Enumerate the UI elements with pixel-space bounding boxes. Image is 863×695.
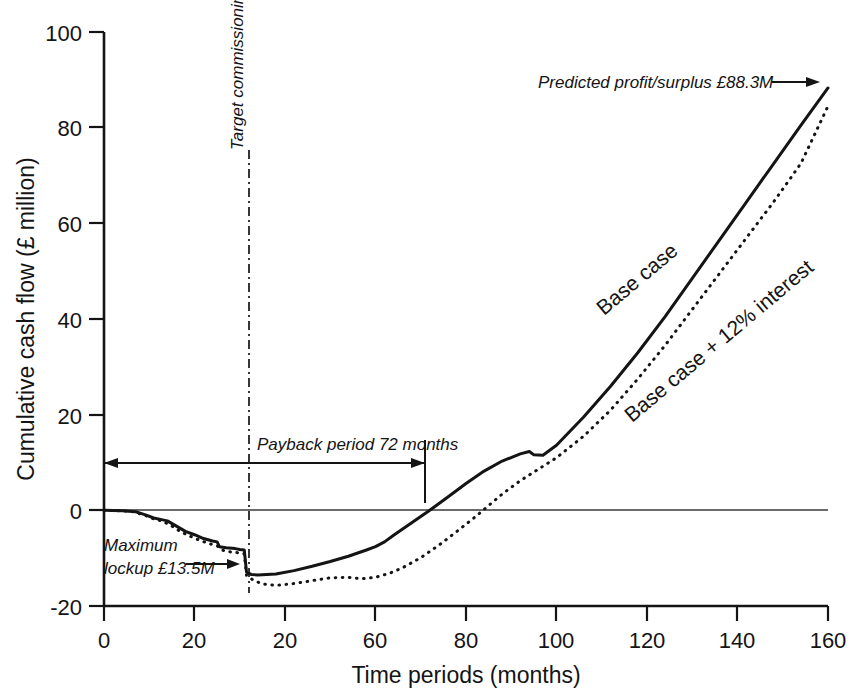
arrow-head-icon [227,559,240,569]
y-tick-label-40: 40 [58,308,82,333]
y-axis-ticks [89,32,104,606]
y-tick-label-100: 100 [45,21,82,46]
y-tick-label-80: 80 [58,116,82,141]
x-axis-tick-labels: 0 20 20 60 80 100 120 140 160 [98,628,846,653]
maximum-lockup-annotation: Maximum lockup £13.5M [104,536,240,578]
cash-flow-chart: 100 80 60 40 20 0 -20 0 20 20 60 80 [0,0,863,695]
x-tick-label-80: 80 [454,628,478,653]
y-tick-label-neg20: -20 [50,595,82,620]
x-axis-title: Time periods (months) [351,662,580,688]
predicted-profit-label: Predicted profit/surplus £88.3M [538,73,774,92]
x-tick-label-20: 20 [182,628,206,653]
x-tick-label-0: 0 [98,628,110,653]
x-tick-label-140: 140 [719,628,756,653]
y-tick-label-0: 0 [70,499,82,524]
target-commissioning-date-label: Target commissioning date [228,0,247,150]
x-tick-label-60: 60 [363,628,387,653]
x-tick-label-40: 20 [273,628,297,653]
chart-canvas: 100 80 60 40 20 0 -20 0 20 20 60 80 [0,0,863,695]
x-axis-ticks [104,606,828,621]
target-commissioning-date-marker: Target commissioning date [228,0,249,593]
y-tick-label-20: 20 [58,404,82,429]
arrow-head-icon [806,77,820,87]
y-tick-label-60: 60 [58,212,82,237]
x-tick-label-100: 100 [538,628,575,653]
y-axis-title: Cumulative cash flow (£ million) [13,157,39,480]
y-axis-tick-labels: 100 80 60 40 20 0 -20 [45,21,82,620]
arrow-left-head-icon [104,458,118,468]
series-label-base-case: Base case [592,238,682,319]
predicted-profit-annotation: Predicted profit/surplus £88.3M [538,73,820,92]
x-tick-label-160: 160 [810,628,847,653]
arrow-right-head-icon [411,458,425,468]
x-tick-label-120: 120 [629,628,666,653]
payback-period-label: Payback period 72 months [257,435,459,454]
maximum-lockup-label-line1: Maximum [104,536,178,555]
maximum-lockup-label-line2: lockup £13.5M [104,559,215,578]
payback-period-annotation: Payback period 72 months [104,435,459,503]
